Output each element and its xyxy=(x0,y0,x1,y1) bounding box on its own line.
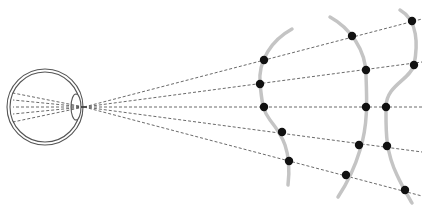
eye-icon xyxy=(7,69,84,145)
surface-1-point xyxy=(256,80,264,88)
surface-3-point xyxy=(410,61,418,69)
surface-2-point xyxy=(342,171,350,179)
sight-ray-1 xyxy=(84,19,422,107)
diagram-canvas xyxy=(0,0,435,212)
surface-2-point xyxy=(355,141,363,149)
sight-ray-4 xyxy=(84,107,422,152)
surface-3-curve xyxy=(386,10,416,203)
sight-rays xyxy=(84,19,422,196)
surface-1-point xyxy=(260,56,268,64)
sight-ray-5 xyxy=(84,107,422,196)
surface-1-point xyxy=(260,103,268,111)
surface-2-point xyxy=(348,32,356,40)
surface-2-point xyxy=(362,66,370,74)
eye-perception-diagram xyxy=(0,0,435,212)
surface-1-point xyxy=(285,157,293,165)
surface-3-point xyxy=(408,17,416,25)
surface-3-point xyxy=(401,186,409,194)
surface-3-point xyxy=(382,103,390,111)
surface-2-point xyxy=(362,103,370,111)
eye-inner-outline xyxy=(10,72,80,142)
surface-3-point xyxy=(383,142,391,150)
surface-1-point xyxy=(278,128,286,136)
sight-ray-2 xyxy=(84,62,422,107)
